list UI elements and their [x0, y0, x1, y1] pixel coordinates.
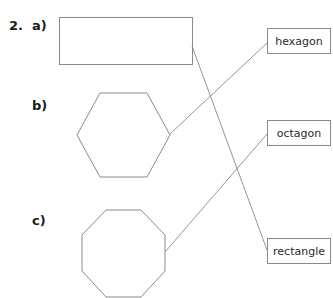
answer-box-hexagon: hexagon	[267, 28, 331, 54]
connector-hexagon	[170, 43, 267, 134]
connector-rectangle	[192, 46, 267, 250]
octagon-shape	[82, 210, 165, 297]
answer-box-octagon: octagon	[267, 120, 331, 146]
hexagon-shape	[77, 93, 170, 177]
connector-octagon	[165, 134, 267, 252]
answer-box-rectangle: rectangle	[267, 238, 331, 264]
rectangle-shape	[60, 18, 193, 65]
